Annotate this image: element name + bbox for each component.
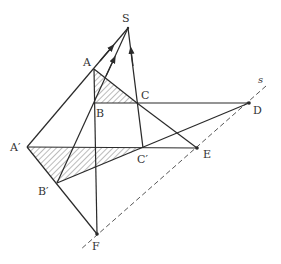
label-C-prime: C′: [137, 153, 148, 166]
label-F: F: [92, 240, 100, 253]
label-A: A: [82, 56, 92, 69]
geometry-figure: S A B C D A′ B′ C′ E F s: [0, 0, 281, 264]
point-F: [95, 232, 99, 236]
ray-S-C-C1: [128, 28, 143, 148]
axis-s-dashed-line: [80, 86, 266, 250]
diagram-canvas: S A B C D A′ B′ C′ E F s: [0, 0, 281, 264]
label-D: D: [253, 104, 262, 117]
point-S: [127, 27, 129, 29]
label-B: B: [96, 107, 104, 120]
point-D: [247, 101, 251, 105]
label-B-prime: B′: [38, 185, 49, 198]
label-C: C: [141, 89, 149, 102]
line-C-E: [137, 103, 197, 148]
label-S: S: [122, 12, 130, 25]
label-E: E: [203, 148, 211, 161]
arrow-icon-ray-B: [106, 59, 114, 76]
arrow-icon-ray-A: [100, 47, 112, 61]
label-A-prime: A′: [9, 141, 21, 154]
label-axis-s: s: [258, 74, 263, 85]
point-E: [195, 146, 199, 150]
triangle-A1B1C1-hatched: [27, 147, 143, 183]
